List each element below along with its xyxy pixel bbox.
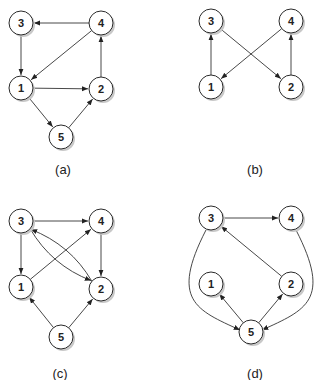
node-label: 3 — [208, 15, 214, 27]
node-label: 2 — [288, 278, 294, 290]
node-label: 3 — [208, 212, 214, 224]
node-label: 1 — [208, 81, 214, 93]
edge-b-3-to-2 — [220, 29, 281, 79]
node-d-3: 3 — [199, 206, 225, 232]
node-d-1: 1 — [199, 272, 225, 298]
node-a-5: 5 — [49, 125, 75, 151]
node-label: 2 — [98, 283, 104, 295]
edge-a-1-to-5 — [29, 97, 53, 127]
panel-caption-d: (d) — [247, 366, 263, 380]
node-d-5: 5 — [239, 320, 265, 346]
node-label: 3 — [18, 17, 24, 29]
node-d-4: 4 — [279, 206, 305, 232]
node-c-4: 4 — [89, 209, 115, 235]
panel-caption-c: (c) — [52, 366, 67, 380]
node-label: 4 — [98, 215, 105, 227]
edge-a-1-to-2 — [33, 88, 88, 89]
node-label: 1 — [18, 281, 24, 293]
node-b-4: 4 — [279, 9, 305, 35]
edge-a-4-to-1 — [31, 31, 92, 80]
node-c-5: 5 — [49, 325, 75, 351]
edge-d-5-to-2 — [259, 294, 283, 323]
node-label: 4 — [288, 212, 295, 224]
node-label: 2 — [98, 83, 104, 95]
panel-c — [21, 221, 101, 328]
panel-caption-b: (b) — [247, 162, 263, 177]
node-label: 1 — [18, 82, 24, 94]
node-c-2: 2 — [89, 277, 115, 303]
edge-a-5-to-2 — [69, 99, 93, 128]
edge-b-4-to-1 — [221, 29, 282, 79]
node-b-1: 1 — [199, 75, 225, 101]
node-c-3: 3 — [9, 209, 35, 235]
node-b-2: 2 — [279, 75, 305, 101]
edge-c-5-to-2 — [69, 299, 93, 328]
node-a-2: 2 — [89, 77, 115, 103]
node-label: 1 — [208, 278, 214, 290]
node-label: 3 — [18, 215, 24, 227]
captions-layer: (a)(b)(c)(d) — [52, 162, 263, 380]
panel-a — [21, 23, 101, 128]
panel-b — [211, 29, 291, 79]
edge-c-5-to-1 — [29, 297, 53, 327]
node-label: 2 — [288, 81, 294, 93]
edge-c-1-to-4 — [30, 229, 91, 279]
edge-d-5-to-1 — [219, 294, 243, 323]
node-label: 5 — [58, 331, 64, 343]
edge-d-2-to-3 — [221, 226, 282, 276]
panel-caption-a: (a) — [55, 162, 71, 177]
edge-c-2-to-3 — [31, 229, 92, 281]
node-b-3: 3 — [199, 9, 225, 35]
node-label: 4 — [288, 15, 295, 27]
node-d-2: 2 — [279, 272, 305, 298]
node-label: 4 — [98, 17, 105, 29]
node-a-3: 3 — [9, 11, 35, 37]
node-a-4: 4 — [89, 11, 115, 37]
nodes-layer: 3412534123412534125 — [9, 9, 305, 351]
graph-diagram: 3412534123412534125 (a)(b)(c)(d) — [0, 0, 329, 380]
node-a-1: 1 — [9, 76, 35, 102]
node-label: 5 — [248, 326, 254, 338]
node-label: 5 — [58, 131, 64, 143]
